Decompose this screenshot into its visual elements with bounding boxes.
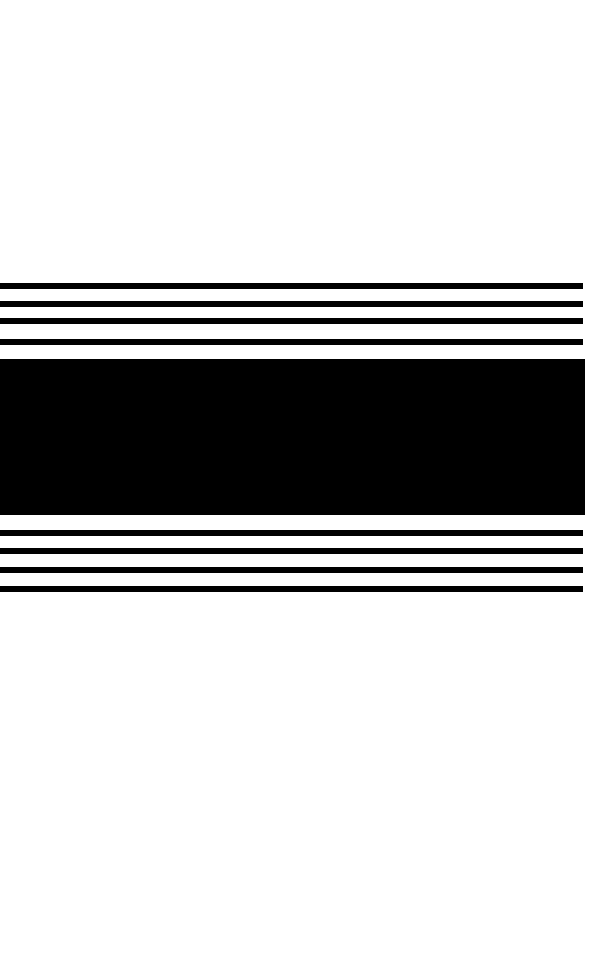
black-stripe <box>0 283 583 289</box>
black-stripe <box>0 339 583 345</box>
solid-black-block <box>0 359 585 515</box>
black-stripe <box>0 318 583 324</box>
black-stripe <box>0 301 583 307</box>
black-stripe <box>0 586 583 592</box>
black-stripe <box>0 548 583 554</box>
black-stripe <box>0 530 583 536</box>
composition-canvas <box>0 0 590 979</box>
black-stripe <box>0 567 583 573</box>
